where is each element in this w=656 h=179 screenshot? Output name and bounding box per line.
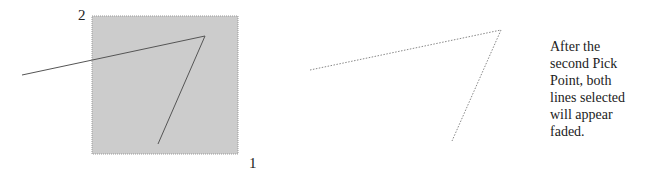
pick-point-label-1: 1 [249,156,257,171]
caption-line: faded. [550,123,650,140]
caption-line: second Pick [550,55,650,72]
faded-line-diagonal [452,30,501,141]
caption-line: Point, both [550,72,650,89]
caption-line: After the [550,38,650,55]
caption-line: will appear [550,106,650,123]
selection-window [92,16,238,154]
caption-text: After the second Pick Point, both lines … [550,38,650,140]
pick-point-label-2: 2 [78,8,86,23]
caption-line: lines selected [550,89,650,106]
faded-line-horizontal [310,30,501,70]
